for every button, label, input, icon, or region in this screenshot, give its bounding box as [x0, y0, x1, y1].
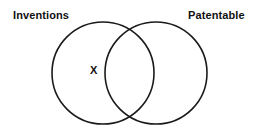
region-marker-x: X [90, 65, 97, 76]
set-circle-patentable [105, 22, 207, 124]
venn-diagram: Inventions Patentable X [0, 0, 257, 132]
set-label-patentable: Patentable [188, 10, 245, 21]
set-label-inventions: Inventions [13, 10, 69, 21]
set-circle-inventions [52, 22, 154, 124]
